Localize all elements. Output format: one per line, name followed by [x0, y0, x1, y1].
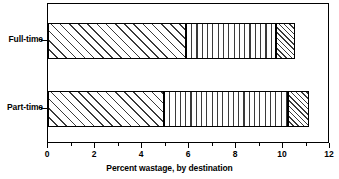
bar-chart: Full-time Part-time 024681012 Percent wa…: [0, 0, 339, 179]
category-label-full-time: Full-time: [0, 34, 43, 44]
bar-segment-full-time-2: [186, 23, 277, 59]
x-axis-label-10: 10: [277, 149, 286, 159]
x-axis-tick-minor-5: [165, 143, 166, 146]
x-axis-tick-minor-7: [212, 143, 213, 146]
bar-segment-part-time-3: [288, 91, 309, 127]
x-axis-label-0: 0: [45, 149, 50, 159]
x-axis-tick-major-10: [282, 143, 283, 148]
x-axis-label-2: 2: [92, 149, 97, 159]
x-axis-tick-minor-3: [118, 143, 119, 146]
x-axis-tick-minor-1: [71, 143, 72, 146]
x-axis-title: Percent wastage, by destination: [0, 163, 339, 173]
x-axis-label-8: 8: [233, 149, 238, 159]
plot-area: [47, 3, 329, 143]
x-axis-tick-minor-9: [259, 143, 260, 146]
x-axis-tick-major-6: [188, 143, 189, 148]
bar-segment-part-time-2: [164, 91, 287, 127]
x-axis-tick-minor-11: [306, 143, 307, 146]
x-axis-tick-major-4: [141, 143, 142, 148]
x-axis-tick-major-0: [47, 143, 48, 148]
bar-segment-part-time-1: [48, 91, 164, 127]
x-axis-label-12: 12: [324, 149, 333, 159]
x-axis-tick-major-8: [235, 143, 236, 148]
category-label-part-time: Part-time: [0, 102, 43, 112]
x-axis-label-6: 6: [186, 149, 191, 159]
x-axis-tick-major-2: [94, 143, 95, 148]
bar-segment-full-time-1: [48, 23, 186, 59]
x-axis-label-4: 4: [139, 149, 144, 159]
bar-segment-full-time-3: [276, 23, 295, 59]
x-axis-tick-major-12: [329, 143, 330, 148]
